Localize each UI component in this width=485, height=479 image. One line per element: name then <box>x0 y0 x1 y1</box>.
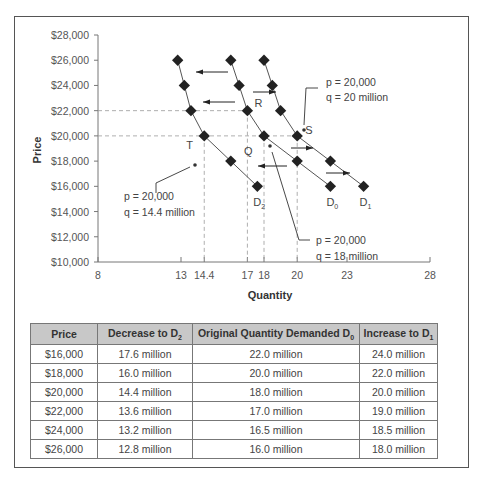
table-row: $24,00013.2 million16.5 million18.5 mill… <box>31 421 438 440</box>
diamond-marker <box>325 155 336 166</box>
cell-increase: 19.0 million <box>360 402 438 421</box>
diamond-marker <box>358 181 369 192</box>
x-axis-label: Quantity <box>248 289 293 301</box>
y-tick-label: $26,000 <box>51 54 89 66</box>
x-tick-label: 14.4 <box>194 269 215 281</box>
cell-original: 22.0 million <box>193 345 360 364</box>
curve-label-sub: 2 <box>261 203 265 210</box>
annotation-line2: q = 14.4 million <box>124 206 195 218</box>
diamond-marker <box>325 181 336 192</box>
diamond-marker <box>172 55 183 66</box>
y-tick-label: $22,000 <box>51 105 89 117</box>
cell-increase: 18.0 million <box>360 440 438 459</box>
point-label-r: R <box>254 97 262 109</box>
y-tick-label: $20,000 <box>51 130 89 142</box>
diamond-marker <box>258 55 269 66</box>
y-axis-label: Price <box>31 137 43 164</box>
x-tick-label: 23 <box>341 269 353 281</box>
cell-decrease: 13.2 million <box>98 421 193 440</box>
y-tick-label: $24,000 <box>51 79 89 91</box>
annotation-line1: p = 20,000 <box>316 234 366 246</box>
diamond-marker <box>292 155 303 166</box>
curve-label-d2: D2 <box>253 196 265 210</box>
annotation-line2: q = 18 million <box>316 250 378 262</box>
point-label-t: T <box>186 139 193 151</box>
table-row: $16,00017.6 million22.0 million24.0 mill… <box>31 345 438 364</box>
arrowhead-icon <box>306 146 313 151</box>
y-tick-label: $12,000 <box>51 231 89 243</box>
cell-decrease: 16.0 million <box>98 364 193 383</box>
arrowhead-icon <box>196 70 203 75</box>
cell-increase: 22.0 million <box>360 364 438 383</box>
cell-decrease: 12.8 million <box>98 440 193 459</box>
curve-d0 <box>231 60 331 186</box>
y-tick-label: $18,000 <box>51 155 89 167</box>
annotation-leader <box>304 88 318 125</box>
diamond-marker <box>275 105 286 116</box>
curve-label-sub: 0 <box>334 203 338 210</box>
y-tick-label: $28,000 <box>51 29 89 41</box>
cell-original: 17.0 million <box>193 402 360 421</box>
diamond-marker <box>292 130 303 141</box>
x-tick-label: 20 <box>291 269 303 281</box>
cell-original: 20.0 million <box>193 364 360 383</box>
x-tick-label: 17 <box>242 269 254 281</box>
header-original: Original Quantity Demanded D0 <box>193 324 360 345</box>
annotation-line2: q = 20 million <box>326 91 388 103</box>
diamond-marker <box>179 80 190 91</box>
x-tick-label: 28 <box>424 269 436 281</box>
cell-decrease: 17.6 million <box>98 345 193 364</box>
cell-price: $24,000 <box>31 421 98 440</box>
cell-original: 18.0 million <box>193 383 360 402</box>
x-tick-label: 8 <box>95 269 101 281</box>
cell-increase: 20.0 million <box>360 383 438 402</box>
annotation-arrowhead-icon <box>193 163 197 167</box>
arrowhead-icon <box>258 164 265 169</box>
demand-shift-chart: $10,000$12,000$14,000$16,000$18,000$20,0… <box>0 0 485 320</box>
diamond-marker <box>225 55 236 66</box>
point-label-q: Q <box>244 145 253 157</box>
cell-price: $18,000 <box>31 364 98 383</box>
point-label-s: S <box>305 124 312 136</box>
table-row: $20,00014.4 million18.0 million20.0 mill… <box>31 383 438 402</box>
cell-increase: 24.0 million <box>360 345 438 364</box>
point-labels: RSQTp = 20,000q = 20 millionp = 20,000q … <box>124 76 388 262</box>
header-price: Price <box>31 324 98 345</box>
cell-decrease: 14.4 million <box>98 383 193 402</box>
cell-increase: 18.5 million <box>360 421 438 440</box>
annotation-line1: p = 20,000 <box>124 190 174 202</box>
x-tick-label: 18 <box>258 269 270 281</box>
cell-price: $22,000 <box>31 402 98 421</box>
annotation-arrowhead-icon <box>302 128 306 132</box>
header-increase: Increase to D1 <box>360 324 438 345</box>
diamond-marker <box>233 80 244 91</box>
diamond-marker <box>185 105 196 116</box>
diamond-marker <box>258 130 269 141</box>
table-row: $18,00016.0 million20.0 million22.0 mill… <box>31 364 438 383</box>
y-tick-label: $16,000 <box>51 180 89 192</box>
cell-original: 16.0 million <box>193 440 360 459</box>
dashed-guides <box>98 111 297 262</box>
x-tick-label: 13 <box>175 269 187 281</box>
table-row: $26,00012.8 million16.0 million18.0 mill… <box>31 440 438 459</box>
annotation-arrowhead-icon <box>268 144 272 148</box>
cell-price: $20,000 <box>31 383 98 402</box>
table-header-row: Price Decrease to D2 Original Quantity D… <box>31 324 438 345</box>
curve-label-main: D <box>360 196 368 208</box>
table-row: $22,00013.6 million17.0 million19.0 mill… <box>31 402 438 421</box>
curve-label-main: D <box>326 196 334 208</box>
arrowhead-icon <box>203 100 210 105</box>
cell-price: $26,000 <box>31 440 98 459</box>
demand-table: Price Decrease to D2 Original Quantity D… <box>30 323 438 459</box>
curve-label-main: D <box>253 196 261 208</box>
annotation-line1: p = 20,000 <box>326 76 376 88</box>
cell-price: $16,000 <box>31 345 98 364</box>
header-decrease: Decrease to D2 <box>98 324 193 345</box>
curve-label-d0: D0 <box>326 196 338 210</box>
diamond-marker <box>242 105 253 116</box>
cell-original: 16.5 million <box>193 421 360 440</box>
y-tick-label: $10,000 <box>51 256 89 268</box>
curve-label-sub: 1 <box>368 203 372 210</box>
curve-label-d1: D1 <box>360 196 372 210</box>
diamond-marker <box>267 80 278 91</box>
